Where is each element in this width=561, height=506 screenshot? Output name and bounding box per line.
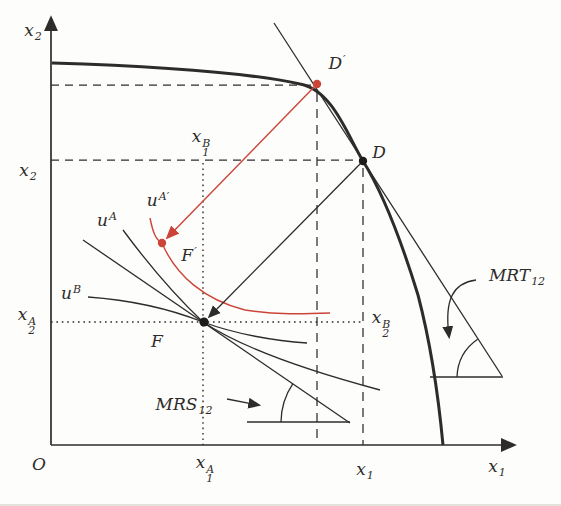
- u-a-label: uA: [97, 211, 117, 229]
- arrow-d-to-f: [210, 161, 363, 316]
- mrt-angle-arc: [457, 339, 478, 377]
- point-f-label: F: [151, 333, 163, 350]
- mrt-label: MRT12: [489, 267, 545, 287]
- x1b-label: xB1: [192, 128, 211, 158]
- ppf-curve: [52, 63, 443, 445]
- point-f-prime: [158, 239, 166, 247]
- x-coordinate-d-label: x1: [356, 461, 374, 481]
- u-a-curve: [123, 230, 380, 390]
- x-coordinate-f-label: xA1: [196, 454, 215, 484]
- x2b-label: xB2: [372, 309, 391, 339]
- y-coordinate-f-label: xA2: [18, 306, 37, 336]
- mrs-tangent-line: [83, 240, 350, 423]
- u-b-curve: [88, 297, 307, 343]
- x-axis-label: x1: [488, 458, 506, 478]
- u-a-prime-curve: [150, 218, 330, 314]
- mrt-label-leader-arrow: [448, 280, 476, 336]
- figure-canvas: x2 x1 O x2 xA2 xA1 x1 xB1 xB2 D′ D F′ F …: [0, 0, 561, 506]
- point-d-prime: [313, 80, 321, 88]
- point-d-prime-label: D′: [328, 54, 345, 72]
- point-f-prime-label: F′: [181, 246, 196, 264]
- point-d: [359, 157, 367, 165]
- point-d-label: D: [372, 144, 386, 161]
- mrs-angle-arc: [281, 384, 293, 422]
- point-f: [199, 317, 208, 326]
- origin-label: O: [32, 456, 46, 473]
- mrs-label-arrow: [227, 399, 258, 405]
- u-b-label: uB: [61, 284, 81, 302]
- u-a-prime-label: uA′: [147, 191, 169, 209]
- y-coordinate-d-label: x2: [19, 162, 37, 182]
- mrs-label: MRS12: [156, 396, 213, 416]
- y-axis-label: x2: [24, 22, 42, 42]
